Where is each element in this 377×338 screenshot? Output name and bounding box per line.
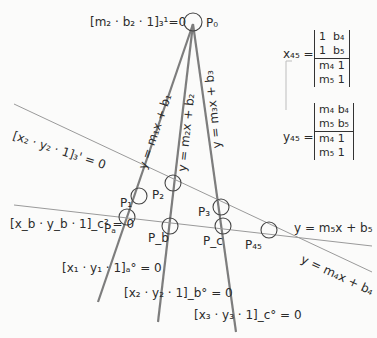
x45-num-r2c2: b₅ bbox=[333, 44, 344, 57]
y45-den-r2c1: m₅ bbox=[319, 146, 334, 159]
left-upper-equation: [x₂ · y₂ · 1]₃' = 0 bbox=[11, 129, 108, 172]
y45-label: y₄₅ = bbox=[283, 131, 314, 143]
point-p3-label: P₃ bbox=[198, 206, 210, 218]
line-3-label: y = m₃x + b₃ bbox=[202, 69, 224, 149]
diagram-canvas: y = m₁x + b₁ y = m₂x + b₂ y = m₃x + b₃ y… bbox=[0, 0, 377, 338]
x45-den-r1c1: m₄ bbox=[319, 59, 334, 72]
y45-denominator: m₄ 1 m₅ 1 bbox=[314, 131, 354, 160]
x45-numerator: 1 b₄ 1 b₅ bbox=[314, 30, 350, 58]
top-equation: [m₂ · b₂ · 1]₃¹=0 bbox=[90, 16, 186, 28]
point-p0-label: P₀ bbox=[206, 17, 218, 29]
point-pc-label: P_c bbox=[203, 235, 223, 247]
x45-num-r2c1: 1 bbox=[319, 44, 326, 57]
x45-label: x₄₅ = bbox=[283, 48, 314, 60]
line-4-label: y = m₄x + b₄ bbox=[299, 252, 376, 298]
line-1-label: y = m₁x + b₁ bbox=[136, 92, 175, 171]
bottom-equation-1: [x₁ · y₁ · 1]ₐ° = 0 bbox=[62, 262, 162, 274]
point-p45-circle[interactable] bbox=[261, 222, 277, 238]
x45-num-r1c2: b₄ bbox=[333, 30, 344, 43]
y45-den-r1c2: 1 bbox=[338, 132, 345, 145]
y45-den-r1c1: m₄ bbox=[319, 132, 334, 145]
point-pb-label: P_b bbox=[148, 232, 169, 244]
point-p2-label: P₂ bbox=[152, 189, 164, 201]
x45-denominator: m₄ 1 m₅ 1 bbox=[314, 58, 350, 87]
x45-den-r2c1: m₅ bbox=[319, 73, 334, 86]
y45-num-r1c1: m₄ bbox=[319, 103, 334, 116]
y45-determinant: m₄ b₄ m₅ b₅ m₄ 1 m₅ 1 bbox=[314, 103, 354, 160]
point-p45-label: P₄₅ bbox=[245, 239, 262, 251]
line-2-label: y = m₂x + b₂ bbox=[175, 93, 197, 173]
y45-numerator: m₄ b₄ m₅ b₅ bbox=[314, 103, 354, 131]
y45-num-r2c1: m₅ bbox=[319, 117, 334, 130]
bottom-equation-3: [x₃ · y₃ · 1]_c° = 0 bbox=[194, 309, 302, 321]
point-p1-text: P₁ bbox=[120, 197, 132, 209]
x45-num-r1c1: 1 bbox=[319, 30, 326, 43]
x45-determinant: 1 b₄ 1 b₅ m₄ 1 m₅ 1 bbox=[314, 30, 350, 87]
left-lower-equation: [x_b · y_b · 1]_c² = 0 bbox=[10, 218, 134, 230]
y45-num-r2c2: b₅ bbox=[338, 117, 349, 130]
x45-den-r1c2: 1 bbox=[338, 59, 345, 72]
y45-num-r1c2: b₄ bbox=[338, 103, 349, 116]
bottom-equation-2: [x₂ · y₂ · 1]_b° = 0 bbox=[124, 287, 233, 299]
y45-den-r2c2: 1 bbox=[338, 146, 345, 159]
line-5-label: y = m₅x + b₅ bbox=[294, 222, 373, 234]
x45-den-r2c2: 1 bbox=[338, 73, 345, 86]
